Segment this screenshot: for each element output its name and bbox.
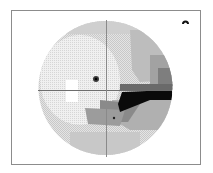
eye-icon [181, 17, 190, 26]
